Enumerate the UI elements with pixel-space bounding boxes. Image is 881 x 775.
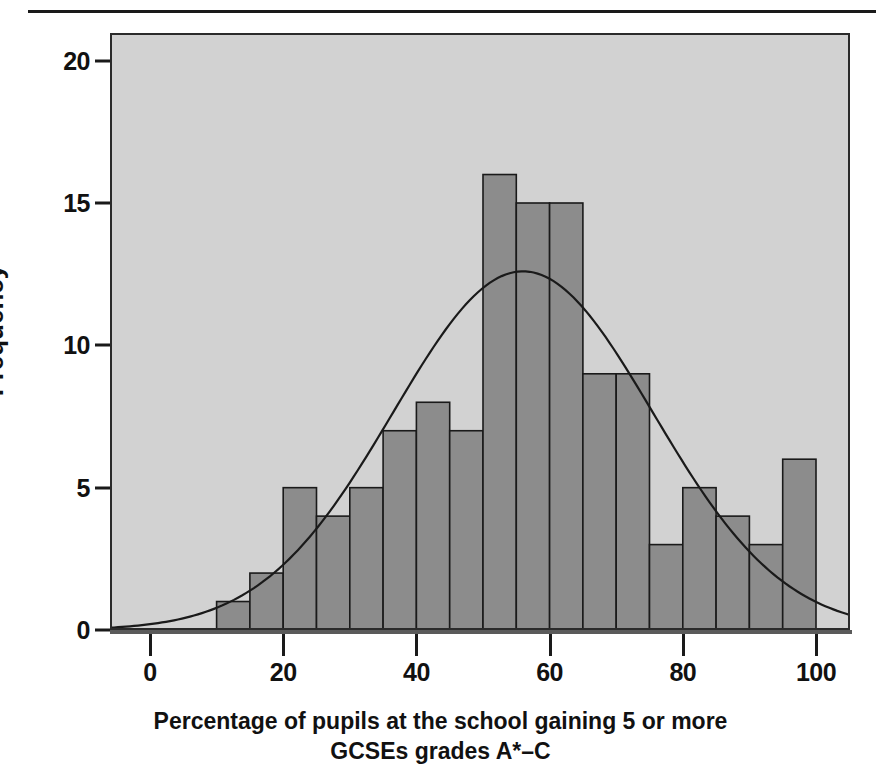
- y-tick-mark: [95, 486, 110, 489]
- histogram-plot-svg: [112, 35, 848, 628]
- histogram-bar: [483, 175, 516, 628]
- histogram-bar: [516, 203, 549, 628]
- x-tick-mark: [815, 634, 818, 656]
- y-tick-label: 0: [77, 616, 90, 645]
- histogram-bar: [550, 203, 583, 628]
- x-tick-label: 100: [796, 658, 836, 687]
- x-tick-label: 40: [403, 658, 430, 687]
- x-tick-label: 0: [143, 658, 156, 687]
- histogram-bar: [783, 459, 816, 628]
- histogram-bar: [350, 488, 383, 628]
- histogram-bar: [650, 545, 683, 628]
- histogram-bar: [317, 516, 350, 628]
- histogram-bar: [250, 573, 283, 628]
- y-tick-label: 5: [77, 473, 90, 502]
- y-tick-mark: [95, 59, 110, 62]
- histogram-bar: [683, 488, 716, 628]
- x-tick-mark: [282, 634, 285, 656]
- histogram-bar: [616, 374, 649, 628]
- x-tick-mark: [682, 634, 685, 656]
- x-tick-label: 60: [536, 658, 563, 687]
- histogram-bar: [283, 488, 316, 628]
- x-tick-mark: [549, 634, 552, 656]
- x-tick-mark: [415, 634, 418, 656]
- histogram-bar: [450, 431, 483, 628]
- histogram-bar: [416, 402, 449, 628]
- y-tick-mark: [95, 629, 110, 632]
- x-axis-title: Percentage of pupils at the school gaini…: [0, 706, 881, 766]
- y-tick-label: 15: [63, 189, 90, 218]
- top-rule-divider: [28, 10, 876, 13]
- x-tick-label: 20: [270, 658, 297, 687]
- y-tick-label: 20: [63, 46, 90, 75]
- x-tick-label: 80: [669, 658, 696, 687]
- x-tick-mark: [149, 634, 152, 656]
- x-axis-baseline: [110, 630, 852, 634]
- x-axis-title-line-1: Percentage of pupils at the school gaini…: [0, 706, 881, 736]
- y-axis: 05101520: [0, 0, 110, 680]
- histogram-bar: [383, 431, 416, 628]
- y-tick-mark: [95, 202, 110, 205]
- x-axis-title-line-2: GCSEs grades A*–C: [0, 736, 881, 766]
- plot-panel: [110, 33, 850, 630]
- histogram-bars: [217, 175, 816, 628]
- y-tick-label: 10: [63, 331, 90, 360]
- histogram-figure: 05101520 Frequency 020406080100 Percenta…: [0, 0, 881, 775]
- y-tick-mark: [95, 344, 110, 347]
- histogram-bar: [583, 374, 616, 628]
- y-axis-title: Frequency: [0, 265, 10, 397]
